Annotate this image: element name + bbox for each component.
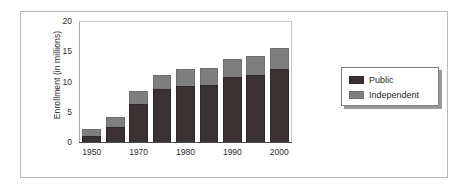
- bar-segment-independent: [176, 69, 195, 86]
- bar-segment-independent: [82, 129, 101, 136]
- y-axis-ticks: 05101520: [52, 16, 72, 141]
- x-axis-ticks: 19501970198019902000: [80, 147, 291, 161]
- bar-segment-independent: [129, 91, 148, 104]
- plot-area: Enrollment (in millions) 05101520 195019…: [38, 16, 298, 176]
- legend-label-public: Public: [369, 76, 394, 85]
- bar-segment-independent: [246, 56, 265, 76]
- bar-segment-independent: [270, 48, 289, 70]
- bar-segment-public: [200, 85, 219, 142]
- bar-segment-public: [223, 77, 242, 142]
- bar-2000: [270, 48, 289, 142]
- legend-item-public: Public: [349, 73, 438, 87]
- bar-segment-public: [153, 89, 172, 142]
- x-tick-label: 1980: [176, 147, 195, 157]
- bar-1995: [246, 56, 265, 143]
- public-swatch-icon: [349, 76, 364, 84]
- x-tick-label: 1990: [223, 147, 242, 157]
- x-tick-label: 1950: [82, 147, 101, 157]
- bar-segment-public: [129, 104, 148, 142]
- bar-segment-public: [176, 86, 195, 142]
- bar-1975: [153, 75, 172, 142]
- bars-container: [80, 21, 291, 142]
- bar-1950: [82, 129, 101, 142]
- bar-1980: [176, 69, 195, 142]
- bar-1990: [223, 59, 242, 142]
- bar-segment-independent: [200, 68, 219, 85]
- bar-segment-public: [270, 69, 289, 142]
- legend-label-independent: Independent: [369, 91, 419, 100]
- bar-1970: [129, 91, 148, 142]
- independent-swatch-icon: [349, 91, 364, 99]
- chart-figure: Enrollment (in millions) 05101520 195019…: [0, 0, 470, 191]
- bar-1960: [106, 117, 125, 142]
- chart-legend: Public Independent: [341, 67, 439, 106]
- y-tick-label: 0: [67, 138, 72, 147]
- bar-segment-independent: [223, 59, 242, 78]
- legend-item-independent: Independent: [349, 88, 438, 102]
- bar-segment-public: [246, 75, 265, 142]
- y-tick-label: 5: [67, 108, 72, 117]
- bar-segment-public: [82, 136, 101, 142]
- bar-1985: [200, 68, 219, 142]
- y-tick-label: 10: [63, 77, 72, 86]
- bar-segment-public: [106, 127, 125, 142]
- bar-segment-independent: [153, 75, 172, 89]
- x-tick-label: 2000: [270, 147, 289, 157]
- x-tick-label: 1970: [129, 147, 148, 157]
- y-tick-label: 15: [63, 47, 72, 56]
- x-axis-line: [79, 142, 292, 143]
- bar-segment-independent: [106, 117, 125, 127]
- y-tick-label: 20: [63, 17, 72, 26]
